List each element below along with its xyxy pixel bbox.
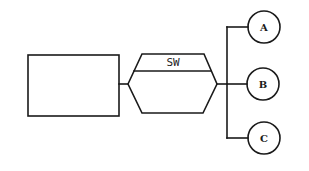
node-c: C: [248, 122, 280, 154]
node-b: B: [247, 68, 279, 100]
switch-node: SW: [128, 54, 217, 113]
host-box: [28, 55, 119, 116]
node-c-label: C: [260, 133, 268, 144]
diagram-canvas: SW A B C: [0, 0, 309, 171]
node-b-label: B: [259, 79, 267, 90]
switch-label: SW: [166, 56, 180, 69]
node-a: A: [248, 11, 280, 43]
node-a-label: A: [259, 22, 268, 33]
